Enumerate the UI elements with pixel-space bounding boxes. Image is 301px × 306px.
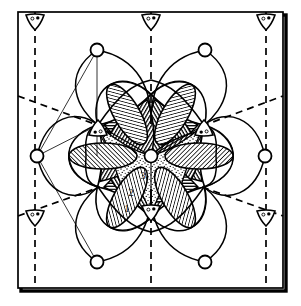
lens: [165, 143, 233, 169]
node-circle: [91, 44, 104, 57]
zone-label-1: 1: [124, 202, 130, 214]
lens: [69, 143, 137, 169]
node-circle: [199, 256, 212, 269]
diagram-canvas: 3 2 1: [0, 0, 301, 306]
node-circle: [199, 44, 212, 57]
node-circle: [31, 150, 44, 163]
node-circle: [91, 256, 104, 269]
six-fold-axis-icon: [145, 150, 158, 163]
crystal-symmetry-figure: 3 2 1: [0, 0, 301, 306]
zone-label-3: 3: [140, 169, 146, 181]
node-circle: [259, 150, 272, 163]
zone-label-2: 2: [128, 186, 134, 198]
